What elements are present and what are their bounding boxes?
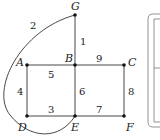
edge-weight-G-B: 1 bbox=[80, 36, 86, 47]
node-label-F: F bbox=[125, 121, 134, 134]
edge-weight-D-E: 3 bbox=[48, 104, 54, 115]
node-label-A: A bbox=[15, 56, 24, 69]
edge-weight-B-E: 6 bbox=[79, 86, 85, 97]
node-label-B: B bbox=[64, 52, 73, 65]
edge-weight-A-B: 5 bbox=[48, 69, 54, 80]
node-G bbox=[73, 13, 77, 17]
node-C bbox=[122, 63, 126, 67]
node-D bbox=[25, 114, 29, 118]
node-F bbox=[122, 114, 126, 118]
edges: 123456789 bbox=[4, 15, 135, 134]
edge-weight-C-F: 8 bbox=[128, 86, 134, 97]
graph-diagram: 123456789 GABCDEF bbox=[0, 0, 160, 140]
edge-weight-A-D: 4 bbox=[17, 86, 23, 97]
node-E bbox=[73, 114, 77, 118]
node-label-C: C bbox=[128, 56, 137, 69]
node-label-E: E bbox=[70, 121, 79, 134]
node-A bbox=[25, 63, 29, 67]
edge-weight-B-C: 9 bbox=[96, 53, 102, 64]
node-label-G: G bbox=[71, 0, 80, 13]
edge-weight-E-F: 7 bbox=[96, 104, 102, 115]
node-label-D: D bbox=[17, 121, 27, 134]
side-panel bbox=[148, 14, 160, 127]
edge-weight-G-E: 2 bbox=[30, 20, 36, 31]
node-B bbox=[73, 63, 77, 67]
